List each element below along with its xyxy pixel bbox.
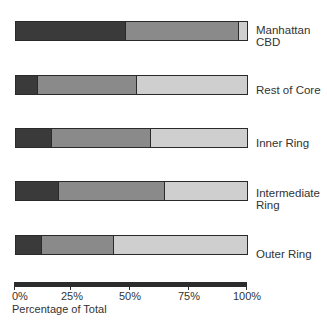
bar-rest-of-core (15, 75, 248, 95)
tick-label-50: 50% (119, 290, 141, 302)
segment-light (238, 22, 247, 40)
tick-100 (246, 282, 247, 290)
tick-label-25: 25% (61, 290, 83, 302)
x-axis-title: Percentage of Total (12, 303, 107, 315)
label-intermediate-ring: Intermediate Ring (256, 187, 320, 211)
segment-light (136, 76, 247, 94)
bar-inner-ring (15, 128, 248, 148)
segment-medium (37, 76, 136, 94)
segment-dark (16, 76, 37, 94)
label-line: Ring (256, 199, 320, 211)
tick-label-75: 75% (178, 290, 200, 302)
label-line: CBD (256, 36, 310, 48)
label-manhattan-cbd: Manhattan CBD (256, 24, 310, 48)
tick-75 (188, 282, 189, 290)
x-axis-bar (14, 282, 247, 287)
segment-dark (16, 182, 58, 200)
segment-medium (41, 236, 113, 254)
tick-label-100: 100% (233, 290, 261, 302)
bar-intermediate-ring (15, 181, 248, 201)
bar-outer-ring (15, 235, 248, 255)
tick-label-0: 0% (12, 290, 28, 302)
segment-light (150, 129, 247, 147)
segment-medium (58, 182, 164, 200)
segment-dark (16, 22, 125, 40)
label-inner-ring: Inner Ring (256, 137, 309, 149)
segment-light (164, 182, 247, 200)
segment-dark (16, 129, 51, 147)
segment-medium (125, 22, 238, 40)
label-outer-ring: Outer Ring (256, 248, 312, 260)
tick-25 (70, 282, 71, 290)
label-line: Intermediate (256, 187, 320, 199)
label-line: Manhattan (256, 24, 310, 36)
segment-light (113, 236, 247, 254)
segment-dark (16, 236, 41, 254)
label-rest-of-core: Rest of Core (256, 84, 321, 96)
segment-medium (51, 129, 150, 147)
bar-manhattan-cbd (15, 21, 248, 41)
tick-50 (129, 282, 130, 290)
tick-0 (14, 282, 15, 290)
